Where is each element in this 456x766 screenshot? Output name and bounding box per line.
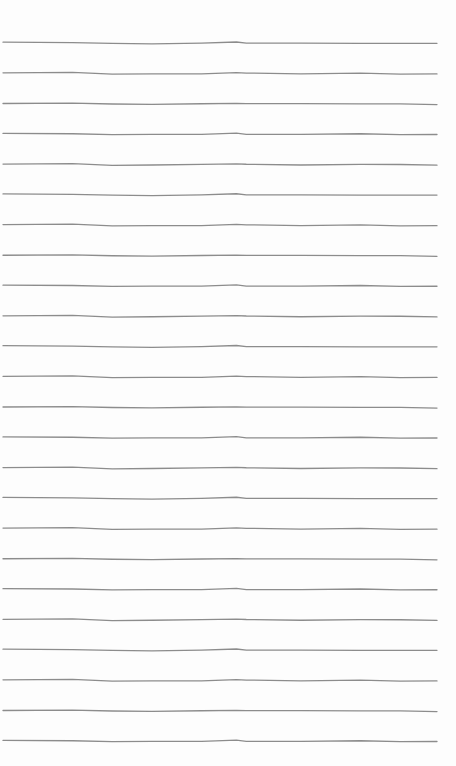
ruled-line bbox=[3, 467, 437, 469]
ruled-line bbox=[3, 255, 437, 257]
ruled-line bbox=[3, 103, 437, 105]
ruled-line bbox=[3, 588, 437, 589]
ruled-line bbox=[3, 346, 437, 348]
ruled-line bbox=[3, 679, 437, 681]
ruled-line bbox=[3, 224, 437, 226]
ruled-line bbox=[3, 285, 437, 286]
ruled-line bbox=[3, 194, 437, 196]
ruled-line bbox=[3, 437, 437, 438]
ruled-line bbox=[3, 315, 437, 317]
ruled-line bbox=[3, 740, 437, 741]
ruled-line bbox=[3, 72, 437, 74]
ruled-line bbox=[3, 528, 437, 530]
ruled-line bbox=[3, 558, 437, 560]
ruled-line bbox=[3, 164, 437, 166]
ruled-lines bbox=[0, 0, 456, 766]
ruled-line bbox=[3, 133, 437, 134]
ruled-line bbox=[3, 407, 437, 409]
ruled-line bbox=[3, 376, 437, 378]
ruled-line bbox=[3, 710, 437, 712]
ruled-line bbox=[3, 497, 437, 499]
ruled-paper bbox=[0, 0, 456, 766]
ruled-line bbox=[3, 649, 437, 651]
ruled-line bbox=[3, 619, 437, 621]
ruled-line bbox=[3, 42, 437, 44]
